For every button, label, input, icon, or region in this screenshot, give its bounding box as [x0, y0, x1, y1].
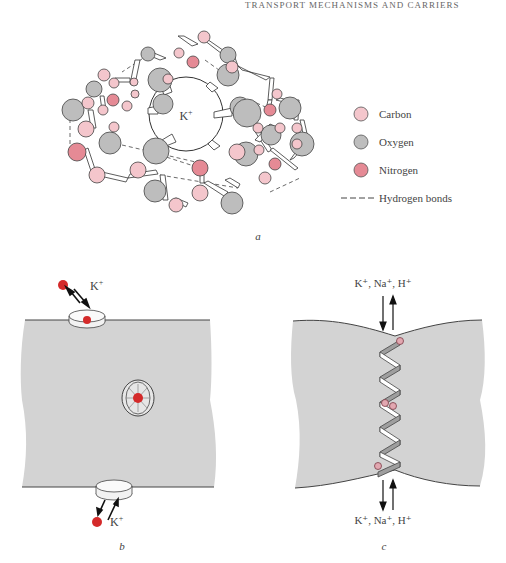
legend: Carbon Oxygen Nitrogen Hydrogen bonds: [341, 107, 452, 204]
legend-nitrogen-label: Nitrogen: [379, 164, 419, 176]
panel-c: K⁺, Na⁺, H⁺ K⁺, Na⁺, H⁺ c: [291, 277, 485, 552]
carrier-middle: [122, 380, 154, 416]
carrier-bottom: [96, 480, 132, 500]
panel-a-label: a: [255, 230, 261, 242]
panel-b-label: b: [119, 540, 125, 552]
figure-canvas: K+: [0, 0, 506, 563]
exchange-arrows-top: [66, 287, 89, 307]
legend-carbon-swatch: [354, 107, 368, 121]
legend-carbon-label: Carbon: [379, 108, 412, 120]
legend-hbond-label: Hydrogen bonds: [379, 192, 452, 204]
ions-label-bottom: K⁺, Na⁺, H⁺: [354, 514, 411, 526]
panel-b: K+: [21, 278, 216, 552]
legend-nitrogen-swatch: [354, 163, 368, 177]
panel-c-label: c: [382, 540, 387, 552]
membrane-b: [21, 320, 216, 487]
legend-oxygen-swatch: [354, 135, 368, 149]
legend-oxygen-label: Oxygen: [379, 136, 414, 148]
ion-label-bottom: K+: [110, 514, 124, 529]
carrier-top: [69, 310, 105, 328]
bound-ion: [83, 316, 91, 324]
ions-label-top: K⁺, Na⁺, H⁺: [354, 277, 411, 289]
ion-label-top: K+: [90, 278, 104, 293]
channel-arrows-top: [380, 296, 396, 330]
channel-arrows-bottom: [380, 480, 396, 510]
free-ion-bottom: [92, 517, 102, 527]
panel-a-molecule: K+: [62, 31, 314, 214]
